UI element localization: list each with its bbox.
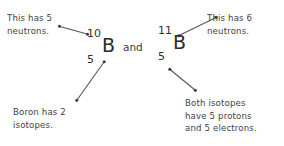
element-symbol-boron-10: B	[102, 36, 115, 55]
connector-dot-right-bottom-end	[194, 89, 197, 92]
annotation-left-top-line1: This has 5	[7, 12, 52, 25]
element-symbol-boron-11: B	[173, 33, 186, 52]
conjunction-label: and	[123, 42, 143, 53]
annotation-left-top-line2: neutrons.	[7, 25, 52, 38]
annotation-right-top: This has 6 neutrons.	[207, 12, 252, 37]
annotation-right-bottom: Both isotopes have 5 protons and 5 elect…	[185, 97, 257, 135]
annotation-right-bottom-line3: and 5 electrons.	[185, 122, 257, 135]
mass-number-boron-11: 11	[158, 25, 172, 36]
annotation-right-top-line2: neutrons.	[207, 25, 252, 38]
annotation-left-bottom-line2: isotopes.	[13, 119, 66, 132]
atomic-number-boron-11: 5	[158, 51, 165, 62]
isotope-notation-boron-11: 11 B 5	[155, 25, 201, 69]
annotation-right-top-line1: This has 6	[207, 12, 252, 25]
connector-dot-left-bottom-start	[75, 99, 78, 102]
isotope-diagram: This has 5 neutrons. This has 6 neutrons…	[0, 0, 284, 146]
mass-number-boron-10: 10	[87, 28, 101, 39]
connector-dot-left-top-start	[58, 25, 61, 28]
annotation-right-bottom-line2: have 5 protons	[185, 110, 257, 123]
connector-right-bottom	[170, 70, 195, 91]
atomic-number-boron-10: 5	[87, 54, 94, 65]
annotation-right-bottom-line1: Both isotopes	[185, 97, 257, 110]
connector-left-top	[60, 27, 87, 35]
annotation-left-bottom: Boron has 2 isotopes.	[13, 106, 66, 131]
annotation-left-top: This has 5 neutrons.	[7, 12, 52, 37]
annotation-left-bottom-line1: Boron has 2	[13, 106, 66, 119]
